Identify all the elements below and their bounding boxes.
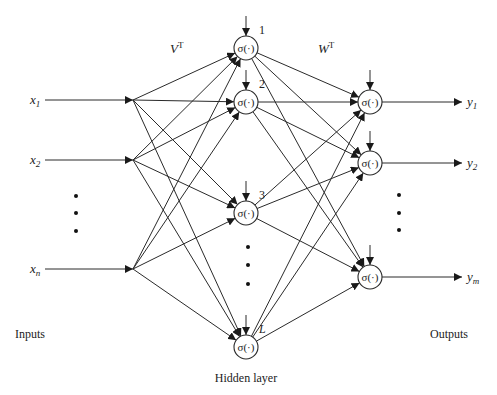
output-weights-label: WT <box>318 40 335 56</box>
input-label-xn: xn <box>29 261 41 278</box>
edge-x1-hL <box>133 100 241 336</box>
edge-h3-y1 <box>255 110 361 205</box>
ellipsis-dot-hidden <box>246 245 250 249</box>
input-label-x2: x2 <box>29 152 41 169</box>
hidden-index-h3: 3 <box>259 188 265 202</box>
edge-xn-h1 <box>133 59 241 269</box>
network-canvas: x1x2xnσ(·)1σ(·)2σ(·)3σ(·)Lσ(·)y1σ(·)y2σ(… <box>0 0 497 395</box>
activation-label: σ(·) <box>238 96 255 109</box>
output-label-y2: y2 <box>465 155 478 172</box>
ellipsis-dot-outputs <box>397 211 401 215</box>
hidden-index-hL: L <box>258 322 266 336</box>
outputs-section-label: Outputs <box>430 327 468 341</box>
input-label-x1: x1 <box>29 92 40 109</box>
edge-xn-h3 <box>133 218 235 269</box>
activation-label: σ(·) <box>362 271 379 284</box>
ellipsis-dot-inputs <box>74 229 78 233</box>
ellipsis-dot-hidden <box>246 282 250 286</box>
output-label-y1: y1 <box>465 94 477 111</box>
hidden-index-h1: 1 <box>259 23 265 37</box>
edge-h1-y1 <box>257 53 359 97</box>
edge-hL-ym <box>256 283 359 341</box>
ellipsis-dot-inputs <box>74 194 78 198</box>
ellipsis-dot-outputs <box>397 228 401 232</box>
edge-x2-hL <box>133 160 240 337</box>
activation-label: σ(·) <box>238 341 255 354</box>
edge-x2-h1 <box>133 56 237 160</box>
edge-x1-h1 <box>133 53 235 100</box>
edge-x2-h3 <box>133 160 235 208</box>
edge-h3-ym <box>257 219 360 272</box>
inputs-section-label: Inputs <box>15 327 45 341</box>
hidden-layer-label: Hidden layer <box>215 371 277 385</box>
output-label-ym: ym <box>465 269 480 286</box>
connection-wires <box>45 16 462 341</box>
edge-h2-ym <box>253 112 363 267</box>
edge-h2-y2 <box>257 107 359 157</box>
activation-label: σ(·) <box>238 207 255 220</box>
input-weights-label: VT <box>170 40 184 56</box>
activation-label: σ(·) <box>238 42 255 55</box>
activation-label: σ(·) <box>362 96 379 109</box>
edge-h1-ym <box>252 59 365 267</box>
ellipsis-dot-outputs <box>397 193 401 197</box>
nodes-layer: x1x2xnσ(·)1σ(·)2σ(·)3σ(·)Lσ(·)y1σ(·)y2σ(… <box>29 23 480 359</box>
hidden-index-h2: 2 <box>259 77 265 91</box>
edge-h1-y2 <box>255 56 361 155</box>
activation-label: σ(·) <box>362 157 379 170</box>
neural-network-diagram: x1x2xnσ(·)1σ(·)2σ(·)3σ(·)Lσ(·)y1σ(·)y2σ(… <box>0 0 497 395</box>
ellipsis-dot-hidden <box>246 263 250 267</box>
ellipsis-dot-inputs <box>74 211 78 215</box>
